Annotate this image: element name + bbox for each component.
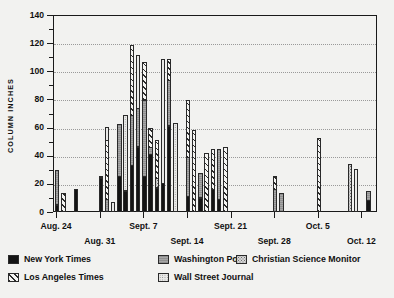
y-tick-label: 0 [0,207,44,217]
bar-stack [142,62,146,211]
legend-label: New York Times [24,254,91,264]
bar-segment-wp [55,170,59,205]
bar-stack [279,193,283,211]
bar-stack [136,55,140,211]
bar-stack [148,128,152,211]
bar-segment-lat [155,140,159,179]
x-tick-label: Oct. 12 [332,236,390,246]
bar-segment-lat [317,138,321,211]
bar-segment-nyt [123,191,127,212]
bar-segment-wp [105,199,109,212]
bar-segment-wp [136,108,140,147]
bar-stack [354,169,358,211]
legend-item-nyt[interactable]: New York Times [8,254,91,264]
legend-swatch-lat-icon [8,273,19,282]
y-tick [47,212,53,213]
bar-segment-wp [142,100,146,177]
legend-swatch-csm-icon [236,255,247,264]
y-tick-label: 40 [0,150,44,160]
bar-segment-lat [167,59,171,80]
bar-stack [111,202,115,211]
x-tick [274,212,275,218]
y-axis-title: COLUMN INCHES [2,36,18,196]
bar-segment-lat [105,140,109,199]
x-tick [56,212,57,218]
x-tick-label: Sept. 14 [158,236,216,246]
bar-segment-wsj [136,55,140,108]
bar-segment-lat [186,100,190,158]
bar-segment-wp [217,149,221,200]
bar-segment-lat [273,176,277,190]
bar-stack [55,170,59,211]
bar-segment-nyt [161,183,165,211]
x-tick-label: Sept. 7 [114,221,172,231]
x-tick [361,212,362,218]
bar-stack [74,189,78,211]
y-tick-label: 80 [0,94,44,104]
x-tick [231,212,232,218]
bar-segment-wp [130,115,134,166]
bar-stack [161,59,165,211]
bar-segment-lat [61,193,65,211]
bar-segment-csm [348,164,352,212]
bar-segment-lat [211,149,215,190]
bar-segment-wsj [161,59,165,184]
y-tick-label: 20 [0,178,44,188]
legend-swatch-wsj-icon [158,273,169,282]
y-tick-label: 60 [0,122,44,132]
bar-segment-wp [186,157,190,196]
bar-segment-wsj [173,123,177,212]
bar-segment-lat [130,45,134,115]
bar-segment-nyt [55,205,59,212]
y-tick-label: 100 [0,66,44,76]
legend-item-csm[interactable]: Christian Science Monitor [236,254,361,264]
bar-stack [192,130,196,211]
bar-segment-nyt [155,188,159,212]
bar-stack [366,191,370,211]
bar-stack [130,45,134,211]
bar-stack [223,147,227,211]
legend-label: Los Angeles Times [24,272,104,282]
bar-stack [167,59,171,211]
bar-stack [317,138,321,211]
x-tick [187,212,188,218]
chart-root: COLUMN INCHES 020406080100120140 Aug. 24… [0,0,394,298]
bar-segment-nyt [186,196,190,211]
bar-stack [348,164,352,211]
bar-stack [198,173,202,211]
bar-segment-wsj [111,202,115,212]
chart-legend: New York TimesWashington PostChristian S… [8,254,388,292]
bar-segment-nyt [167,126,171,212]
bar-segment-nyt [142,176,146,211]
bar-segment-wp [273,189,277,212]
bar-segment-wp [167,80,171,126]
bar-segment-wsj [354,169,358,211]
bar-segment-lat [204,153,208,212]
x-tick-label: Sept. 21 [202,221,260,231]
bar-stack [61,193,65,211]
bar-segment-lat [192,130,196,212]
bar-segment-nyt [99,178,103,212]
bar-segment-nyt [148,154,152,212]
bar-stack [99,176,103,211]
bar-stack [186,100,190,211]
legend-item-wsj[interactable]: Wall Street Journal [158,272,253,282]
plot-area [53,15,377,212]
bar-segment-nyt [366,200,370,211]
bar-segment-nyt [117,176,121,211]
bar-stack [217,149,221,211]
x-tick [100,212,101,218]
legend-item-lat[interactable]: Los Angeles Times [8,272,104,282]
bar-stack [155,140,159,211]
bar-segment-nyt [136,147,140,212]
legend-swatch-wp-icon [158,255,169,264]
bar-stack [105,127,109,211]
legend-swatch-nyt-icon [8,255,19,264]
y-tick-label: 120 [0,38,44,48]
bar-stack [211,149,215,211]
x-tick-label: Aug. 24 [27,221,85,231]
bar-stack [117,124,121,211]
x-tick [318,212,319,218]
bar-segment-wsj [105,127,109,141]
legend-item-wp[interactable]: Washington Post [158,254,246,264]
